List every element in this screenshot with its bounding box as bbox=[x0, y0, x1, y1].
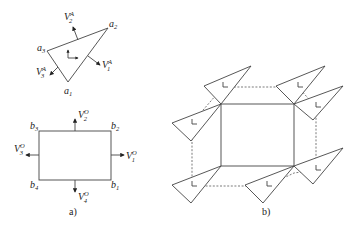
triangle-top-left-2 bbox=[172, 104, 221, 141]
figure-a-rectangle: b3 b2 b4 b1 VO2 VO4 VO1 VO3 a) bbox=[14, 108, 137, 218]
vector-v4o-label: VO4 bbox=[78, 190, 89, 204]
vertex-b4-label: b4 bbox=[30, 179, 39, 191]
vector-v3o-label: VO3 bbox=[14, 142, 25, 156]
triangle-bottom-right bbox=[294, 148, 343, 184]
vector-v3a-label: VA3 bbox=[36, 65, 46, 79]
central-rectangle bbox=[221, 104, 294, 166]
figure-a-triangle: a2 a3 a1 VA2 VA1 VA3 bbox=[36, 10, 118, 97]
rectangle-b-shape bbox=[39, 131, 111, 180]
caption-a: a) bbox=[69, 206, 77, 218]
triangle-bottom-left bbox=[172, 166, 221, 203]
triangle-a-shape bbox=[47, 28, 108, 82]
figure-b: b) bbox=[172, 66, 343, 218]
vector-v3a-arrow-icon bbox=[50, 67, 58, 75]
vertex-a3-label: a3 bbox=[37, 42, 46, 54]
vertex-a2-label: a2 bbox=[109, 18, 118, 30]
vector-v2a-arrow-icon bbox=[73, 27, 78, 40]
vector-v1a-arrow-icon bbox=[88, 56, 100, 65]
triangle-top-left-1 bbox=[204, 66, 251, 104]
caption-b: b) bbox=[262, 206, 270, 218]
vector-v1o-label: VO1 bbox=[126, 149, 137, 163]
vertex-a1-label: a1 bbox=[64, 85, 72, 97]
vertex-b3-label: b3 bbox=[30, 120, 39, 132]
vector-v1a-label: VA1 bbox=[102, 58, 112, 72]
vector-v2o-label: VO2 bbox=[78, 108, 89, 122]
diagram-canvas: a2 a3 a1 VA2 VA1 VA3 b3 b2 b4 b1 VO2 VO4… bbox=[0, 0, 355, 229]
vector-v2a-label: VA2 bbox=[64, 10, 74, 24]
vertex-b2-label: b2 bbox=[111, 120, 120, 132]
vertex-b1-label: b1 bbox=[111, 179, 119, 191]
triangle-bottom-center bbox=[245, 166, 294, 203]
